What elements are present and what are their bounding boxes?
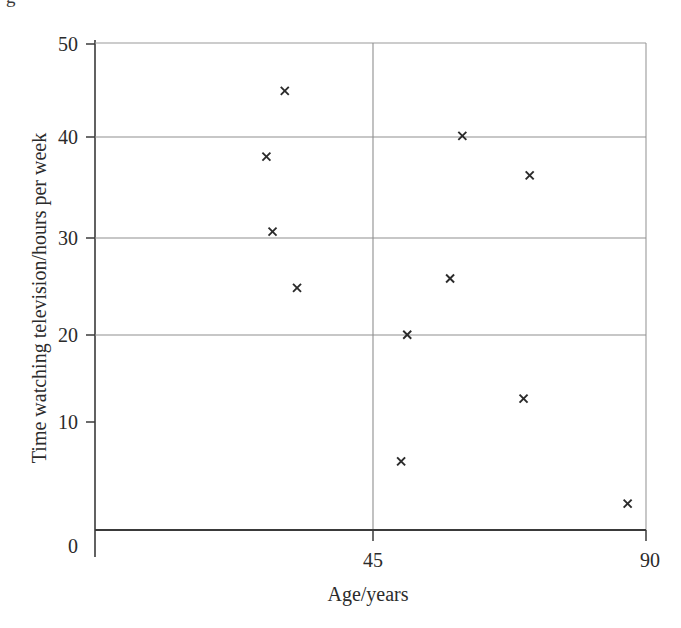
data-point-marker bbox=[262, 153, 270, 161]
y-tick-label-10: 10 bbox=[58, 411, 78, 433]
x-tick-label-45: 45 bbox=[363, 549, 383, 571]
y-tick-label-20: 20 bbox=[58, 324, 78, 346]
y-tick-label-50: 50 bbox=[58, 33, 78, 55]
scatter-plot-figure: g 50 40 30 20 10 0 45 90 Age bbox=[0, 0, 681, 628]
y-tick-label-40: 40 bbox=[58, 126, 78, 148]
data-point-group bbox=[262, 87, 631, 508]
data-point-marker bbox=[397, 457, 405, 465]
cropped-caption-strip: g bbox=[0, 0, 681, 12]
data-point-marker bbox=[624, 500, 632, 508]
data-point-marker bbox=[281, 87, 289, 95]
x-axis-title: Age/years bbox=[327, 583, 408, 606]
data-point-marker bbox=[526, 171, 534, 179]
x-tick-label-90: 90 bbox=[640, 549, 660, 571]
data-point-marker bbox=[269, 228, 277, 236]
cropped-caption-text: g bbox=[6, 0, 16, 8]
y-tick-label-30: 30 bbox=[58, 227, 78, 249]
data-point-marker bbox=[446, 275, 454, 283]
data-point-marker bbox=[520, 395, 528, 403]
y-axis-title: Time watching television/hours per week bbox=[28, 133, 51, 463]
y-tick-label-0: 0 bbox=[68, 535, 78, 557]
plot-canvas: 50 40 30 20 10 0 45 90 Age/years Time wa… bbox=[0, 0, 681, 628]
data-point-marker bbox=[458, 132, 466, 140]
data-point-marker bbox=[293, 284, 301, 292]
